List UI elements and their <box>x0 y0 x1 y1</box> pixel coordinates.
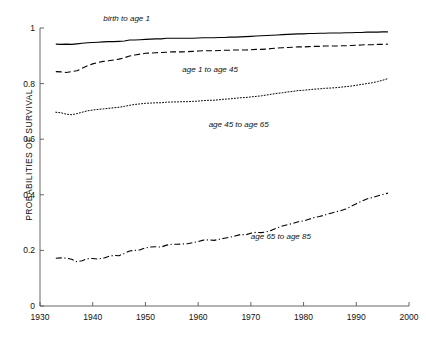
x-axis-tick-label: 2000 <box>389 312 426 322</box>
y-axis-tick-label: 0.4 <box>2 190 35 200</box>
chart-plot-area <box>0 0 426 338</box>
x-axis-tick-label: 1950 <box>125 312 165 322</box>
chart-figure: PROBABILITIES OF SURVIVAL 19301940195019… <box>0 0 426 338</box>
series-label-3: age 65 to age 85 <box>251 232 311 241</box>
x-axis-tick-label: 1980 <box>284 312 324 322</box>
series-label-1: age 1 to age 45 <box>182 65 238 74</box>
x-axis-tick-label: 1970 <box>231 312 271 322</box>
series-label-0: birth to age 1 <box>103 14 150 23</box>
x-axis-tick-label: 1930 <box>20 312 60 322</box>
y-axis-tick-label: 0.6 <box>2 134 35 144</box>
x-axis-tick-label: 1940 <box>73 312 113 322</box>
x-axis-tick-label: 1960 <box>178 312 218 322</box>
y-axis-tick-label: 0.8 <box>2 79 35 89</box>
series-label-2: age 45 to age 65 <box>209 120 269 129</box>
series-line-2 <box>56 79 388 115</box>
y-axis-tick-label: 0.2 <box>2 245 35 255</box>
series-line-3 <box>56 193 388 262</box>
y-axis-tick-label: 0 <box>2 301 35 311</box>
series-line-0 <box>56 32 388 45</box>
x-axis-tick-label: 1990 <box>336 312 376 322</box>
y-axis-tick-label: 1 <box>2 23 35 33</box>
